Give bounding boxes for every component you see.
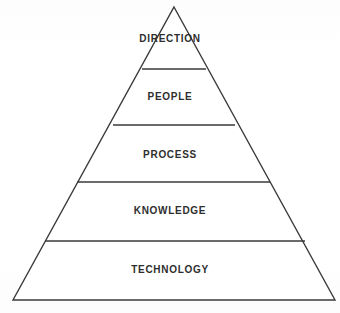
tier-label-process: PROCESS <box>0 150 340 160</box>
tier-label-knowledge: KNOWLEDGE <box>0 206 340 216</box>
pyramid-diagram: DIRECTION PEOPLE PROCESS KNOWLEDGE TECHN… <box>0 0 340 313</box>
tier-label-technology: TECHNOLOGY <box>0 265 340 275</box>
tier-label-people: PEOPLE <box>0 92 340 102</box>
tier-label-direction: DIRECTION <box>0 34 340 44</box>
